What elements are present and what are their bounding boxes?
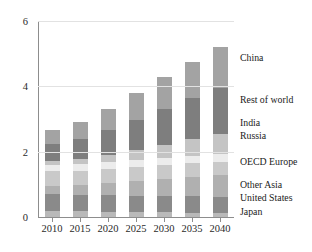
- bar-segment-japan: [101, 212, 116, 217]
- bar-segment-other-asia: [129, 181, 144, 196]
- bar-segment-united-states: [45, 194, 60, 211]
- x-tick-2035: [192, 218, 193, 222]
- x-tick-label-2040: 2040: [210, 224, 231, 235]
- gridline-4: [38, 86, 234, 87]
- bars-container: [38, 21, 234, 217]
- bar-2010[interactable]: [45, 130, 60, 217]
- bar-segment-other-asia: [45, 186, 60, 194]
- x-tick-2030: [164, 218, 165, 222]
- legend-label-united-states[interactable]: United States: [240, 193, 293, 203]
- bar-2025[interactable]: [129, 93, 144, 217]
- bar-segment-japan: [185, 213, 200, 217]
- bar-segment-rest-of-world: [129, 120, 144, 150]
- plot-area: 2010201520202025203020352040: [38, 22, 234, 218]
- bar-segment-russia: [157, 158, 172, 165]
- bar-2040[interactable]: [213, 47, 228, 217]
- bar-2020[interactable]: [101, 109, 116, 217]
- legend-label-china[interactable]: China: [240, 53, 263, 63]
- bar-segment-other-asia: [73, 185, 88, 195]
- bar-segment-oecd-europe: [101, 169, 116, 183]
- x-tick-label-2025: 2025: [126, 224, 147, 235]
- x-tick-label-2035: 2035: [182, 224, 203, 235]
- bar-segment-rest-of-world: [157, 109, 172, 144]
- bar-2035[interactable]: [185, 62, 200, 217]
- bar-segment-china: [45, 130, 60, 144]
- x-tick-2020: [108, 218, 109, 222]
- bar-segment-other-asia: [213, 175, 228, 197]
- gridline-6: [38, 21, 234, 22]
- bar-segment-other-asia: [185, 177, 200, 196]
- bar-segment-china: [157, 77, 172, 109]
- bar-segment-other-asia: [157, 179, 172, 196]
- bar-segment-united-states: [73, 195, 88, 211]
- legend-label-oecd-europe[interactable]: OECD Europe: [240, 157, 297, 167]
- legend-label-rest-of-world[interactable]: Rest of world: [240, 95, 293, 105]
- bar-segment-rest-of-world: [213, 88, 228, 134]
- bar-segment-rest-of-world: [185, 98, 200, 139]
- bar-segment-japan: [45, 211, 60, 217]
- bar-segment-china: [185, 62, 200, 99]
- bar-segment-india: [101, 155, 116, 163]
- x-tick-2015: [80, 218, 81, 222]
- bar-segment-united-states: [129, 196, 144, 212]
- legend-label-russia[interactable]: Russia: [240, 131, 266, 141]
- bar-segment-oecd-europe: [213, 162, 228, 176]
- legend: ChinaRest of worldIndiaRussiaOECD Europe…: [240, 0, 312, 252]
- bar-segment-japan: [73, 211, 88, 217]
- x-tick-label-2030: 2030: [154, 224, 175, 235]
- bar-segment-rest-of-world: [73, 139, 88, 159]
- bar-segment-oecd-europe: [129, 167, 144, 181]
- y-tick-label-4: 4: [23, 82, 28, 93]
- bar-segment-russia: [185, 156, 200, 164]
- gridline-2: [38, 152, 234, 153]
- legend-label-india[interactable]: India: [240, 118, 260, 128]
- bar-segment-china: [213, 47, 228, 88]
- y-axis-labels: 0246: [0, 22, 32, 218]
- legend-label-japan[interactable]: Japan: [240, 207, 262, 217]
- bar-segment-oecd-europe: [185, 163, 200, 177]
- bar-segment-united-states: [185, 196, 200, 212]
- stacked-bar-chart: 0246 2010201520202025203020352040 ChinaR…: [0, 0, 312, 252]
- x-tick-label-2020: 2020: [98, 224, 119, 235]
- bar-segment-united-states: [157, 196, 172, 212]
- bar-segment-china: [73, 122, 88, 139]
- x-tick-2025: [136, 218, 137, 222]
- x-tick-2010: [52, 218, 53, 222]
- bar-segment-japan: [213, 213, 228, 217]
- bar-segment-russia: [129, 160, 144, 167]
- y-tick-label-6: 6: [23, 17, 28, 28]
- bar-segment-india: [185, 139, 200, 155]
- bar-segment-oecd-europe: [45, 171, 60, 185]
- bar-2030[interactable]: [157, 77, 172, 217]
- x-tick-label-2015: 2015: [70, 224, 91, 235]
- x-tick-label-2010: 2010: [42, 224, 63, 235]
- bar-segment-russia: [213, 154, 228, 162]
- y-tick-label-2: 2: [23, 147, 28, 158]
- x-tick-2040: [220, 218, 221, 222]
- legend-label-other-asia[interactable]: Other Asia: [240, 180, 282, 190]
- bar-2015[interactable]: [73, 122, 88, 217]
- bar-segment-united-states: [101, 195, 116, 211]
- bar-segment-oecd-europe: [157, 165, 172, 179]
- bar-segment-japan: [129, 212, 144, 217]
- bar-segment-china: [101, 109, 116, 130]
- bar-segment-oecd-europe: [73, 171, 88, 185]
- bar-segment-china: [129, 93, 144, 120]
- y-tick-label-0: 0: [23, 213, 28, 224]
- bar-segment-japan: [157, 212, 172, 217]
- bar-segment-united-states: [213, 197, 228, 213]
- bar-segment-other-asia: [101, 183, 116, 195]
